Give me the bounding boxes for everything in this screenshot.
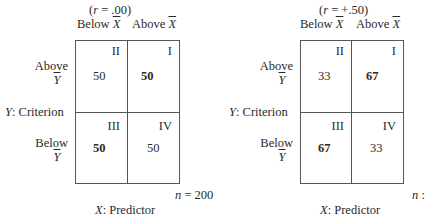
row-header-below-y: Below Y <box>30 136 68 164</box>
cell-I-value: 67 <box>366 69 379 84</box>
col-header-below-x: Below X <box>77 17 120 32</box>
col-header-below-x: Below X <box>300 17 343 32</box>
quadrant-III-label: III <box>320 119 344 134</box>
col-header-above-x: Above X <box>356 17 400 32</box>
cell-II-value: 33 <box>318 69 331 84</box>
quadrant-II-label: II <box>324 44 344 59</box>
correlation-label: (r = +.50) <box>319 3 368 18</box>
sample-size-label: n : <box>412 188 425 203</box>
x-axis-label: X: Predictor <box>95 203 155 217</box>
quadrant-I-label: I <box>150 44 172 59</box>
y-axis-label: Y: Criterion <box>229 105 288 120</box>
cell-I-value: 50 <box>141 69 154 84</box>
cell-IV-value: 50 <box>147 141 160 156</box>
grid-divider-horizontal <box>300 112 404 113</box>
x-axis-label: X: Predictor <box>320 203 380 217</box>
cell-III-value: 67 <box>318 141 331 156</box>
quadrant-II-label: II <box>100 44 120 59</box>
quadrant-IV-label: IV <box>148 119 172 134</box>
quadrant-I-label: I <box>374 44 396 59</box>
row-header-below-y: Below Y <box>255 136 293 164</box>
cell-III-value: 50 <box>93 141 106 156</box>
grid-divider-horizontal <box>75 112 180 113</box>
cell-IV-value: 33 <box>370 141 383 156</box>
cell-II-value: 50 <box>93 69 106 84</box>
quadrant-III-label: III <box>96 119 120 134</box>
y-axis-label: Y: Criterion <box>5 105 64 120</box>
correlation-label: (r = .00) <box>89 3 131 18</box>
quadrant-IV-label: IV <box>372 119 396 134</box>
row-header-above-y: Above Y <box>30 59 68 87</box>
col-header-above-x: Above X <box>132 17 176 32</box>
row-header-above-y: Above Y <box>255 59 293 87</box>
sample-size-label: n = 200 <box>175 188 213 203</box>
